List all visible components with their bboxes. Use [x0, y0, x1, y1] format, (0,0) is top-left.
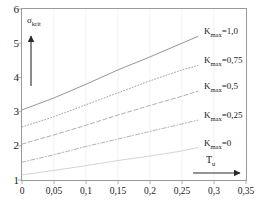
x-tick-label: 0,05: [46, 186, 63, 196]
series-label: Kmax=1,0: [204, 27, 238, 39]
y-tick-label: 6: [3, 4, 19, 15]
series-label: Kmax=0,75: [204, 56, 243, 68]
x-tick-label: 0: [20, 186, 25, 196]
series-label: Kmax=0,5: [204, 82, 238, 94]
y-tick-label: 4: [3, 72, 19, 83]
y-axis-title: σkrit: [27, 16, 41, 28]
x-tick-label: 0,1: [80, 186, 92, 196]
x-tick-label: 0,3: [208, 186, 220, 196]
x-tick-label: 0,15: [110, 186, 127, 196]
y-tick-label: 3: [3, 106, 19, 117]
x-tick-label: 0,25: [174, 186, 191, 196]
y-tick-label: 2: [3, 140, 19, 151]
x-axis-title: Tu: [206, 155, 215, 169]
x-tick-label: 0,2: [144, 186, 156, 196]
series-label: Kmax=0: [204, 139, 231, 151]
x-tick-label: 0,35: [238, 186, 255, 196]
y-tick-label: 5: [3, 38, 19, 49]
chart-figure: σkrit Tu 123456 00,050,10,150,20,250,30,…: [0, 0, 262, 206]
series-label: Kmax=0,25: [204, 111, 243, 123]
y-tick-label: 1: [3, 175, 19, 186]
